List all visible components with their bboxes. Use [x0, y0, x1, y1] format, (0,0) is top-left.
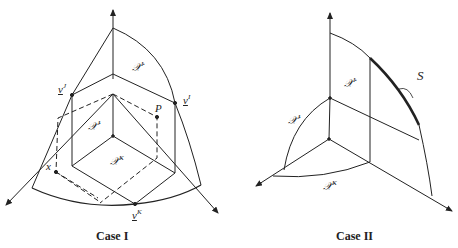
case-1-region-k-label: 𝒳K: [110, 155, 124, 167]
case-1-point-x-label: x: [46, 161, 51, 172]
case-2-figure: [256, 13, 452, 211]
case-2-curve-s: [370, 58, 419, 125]
case-1-caption: Case I: [96, 229, 128, 244]
case-2-axis-left: [256, 139, 329, 186]
case-2-region-i-label: 𝒳I: [344, 77, 355, 89]
case-2-region-k-arc: [273, 162, 370, 177]
case-1-vertex-k-label: vK: [132, 209, 142, 221]
case-2-axis-right: [329, 139, 452, 211]
case-2-region-j-curve: [284, 98, 330, 170]
case-1-figure: [6, 10, 218, 213]
case-1-axis-left: [6, 94, 113, 205]
case-1-region-i-label: 𝒳I: [132, 61, 143, 73]
case-1-point-p-label: P: [155, 103, 162, 114]
case-1-axis-right: [113, 94, 218, 213]
case-2-region-k-label: 𝒳K: [323, 180, 337, 192]
case-1-hexagon: [72, 74, 175, 204]
case-1-vertex-j-label: vJ: [58, 83, 66, 95]
case-1-outer-bottom-arc: [32, 185, 201, 205]
case-2-curve-s-label: S: [417, 69, 424, 82]
case-1-vertex-i-label: vI: [183, 94, 190, 106]
case-2-region-j-label: 𝒳J: [288, 114, 300, 126]
diagram-canvas: [0, 0, 458, 248]
case-2-caption: Case II: [336, 229, 373, 244]
case-1-region-j-label: 𝒳J: [88, 120, 100, 132]
